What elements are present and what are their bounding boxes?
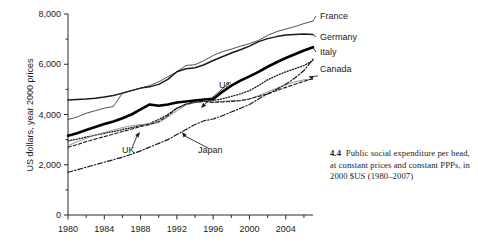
chart-background [0,0,478,247]
figure-caption: 4.4 Public social expenditure per head, … [330,148,470,183]
y-tick-label: 2,000 [38,160,61,170]
caption-number: 4.4 [330,148,341,158]
x-tick-label: 1984 [94,224,114,234]
annotation-label-japan: Japan [198,145,223,155]
y-tick-label: 0 [56,210,61,220]
caption-text: Public social expenditure per head, at c… [330,148,470,181]
series-label-italy: Italy [320,47,337,57]
figure-4-4: 02,0004,0006,0008,000 198019841988199219… [0,0,478,247]
series-label-france: France [320,11,348,21]
y-axis-title: US dollars, year 2000 prices [25,58,35,172]
line-chart: 02,0004,0006,0008,000 198019841988199219… [0,0,478,247]
series-label-canada: Canada [320,64,352,74]
series-label-germany: Germany [320,32,358,42]
x-tick-label: 2000 [239,224,259,234]
annotation-label-us: US [219,80,232,90]
y-tick-label: 8,000 [38,9,61,19]
x-tick-label: 1988 [131,224,151,234]
x-tick-label: 2004 [276,224,296,234]
x-tick-label: 1996 [203,224,223,234]
x-tick-label: 1992 [167,224,187,234]
y-tick-label: 4,000 [38,110,61,120]
y-tick-label: 6,000 [38,59,61,69]
x-tick-label: 1980 [58,224,78,234]
